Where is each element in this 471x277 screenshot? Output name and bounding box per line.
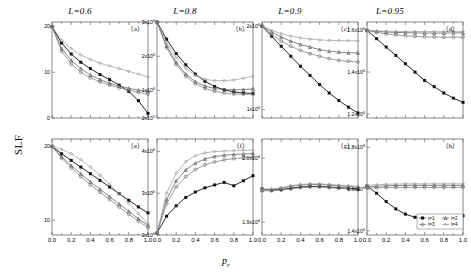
svg-text:10: 10 [44,217,50,223]
svg-text:0.6: 0.6 [210,237,219,243]
svg-text:1.4x106: 1.4x106 [347,69,365,75]
svg-text:0.0: 0.0 [363,237,372,243]
svg-text:1.6x106: 1.6x106 [347,27,365,33]
svg-text:4x106: 4x106 [142,148,155,154]
svg-text:1x106: 1x106 [247,106,260,112]
svg-text:0.4: 0.4 [401,237,410,243]
svg-text:0.2: 0.2 [172,237,181,243]
svg-text:1.8x106: 1.8x106 [347,144,365,150]
svg-text:0.4: 0.4 [191,237,200,243]
panel-tag: （d） [442,25,459,32]
svg-text:3x106: 3x106 [142,190,155,196]
svg-text:1.2x106: 1.2x106 [347,111,365,117]
svg-text:0.0: 0.0 [258,237,267,243]
svg-text:20: 20 [44,143,50,149]
x-axis-label: pr [222,255,230,269]
panel-d: 1.2x1061.4x1061.6x106（d） [341,18,471,128]
svg-text:1.0: 1.0 [459,237,468,243]
svg-text:1.4x106: 1.4x106 [347,228,365,234]
series-line [367,30,463,102]
column-title-3: L=0.95 [340,6,440,16]
svg-text:0.2: 0.2 [277,237,286,243]
legend-label: t=2 [451,216,458,221]
panel-d-canvas: 1.2x1061.4x1061.6x106（d） [341,18,471,128]
svg-text:0.0: 0.0 [48,237,57,243]
column-title-2: L=0.9 [240,6,340,16]
panel-h: 1.4x1061.6x1061.8x1060.00.20.40.60.81.0（… [341,135,471,245]
svg-text:0.2: 0.2 [67,237,76,243]
svg-text:10: 10 [44,69,50,75]
svg-text:3x106: 3x106 [142,19,155,25]
panel-tag: （h） [442,142,459,149]
svg-text:0.4: 0.4 [296,237,305,243]
series-line [367,186,463,218]
svg-text:0.6: 0.6 [315,237,324,243]
panel-h-canvas: 1.4x1061.6x1061.8x1060.00.20.40.60.81.0（… [341,135,471,245]
svg-text:1x106: 1x106 [142,87,155,93]
svg-text:2x105: 2x105 [142,115,155,121]
legend-label: t=4 [451,222,458,227]
legend-label: t=1 [428,216,435,221]
svg-text:2x106: 2x106 [247,23,260,29]
y-axis-label: SLF [12,135,24,155]
svg-text:0.6: 0.6 [105,237,114,243]
svg-text:20: 20 [44,23,50,29]
svg-text:0.4: 0.4 [86,237,95,243]
svg-text:0.2: 0.2 [382,237,391,243]
column-title-0: L=0.6 [30,6,130,16]
svg-text:0.8: 0.8 [440,237,449,243]
svg-text:1.6x106: 1.6x106 [347,186,365,192]
column-title-1: L=0.8 [135,6,235,16]
svg-text:0: 0 [47,115,50,121]
series-line [367,187,463,188]
svg-text:0.6: 0.6 [420,237,429,243]
legend-label: t=3 [428,222,435,227]
svg-text:1.9x106: 1.9x106 [242,219,260,225]
svg-text:2x106: 2x106 [142,53,155,59]
svg-text:2.0x106: 2.0x106 [242,155,260,161]
svg-text:0.0: 0.0 [153,237,162,243]
